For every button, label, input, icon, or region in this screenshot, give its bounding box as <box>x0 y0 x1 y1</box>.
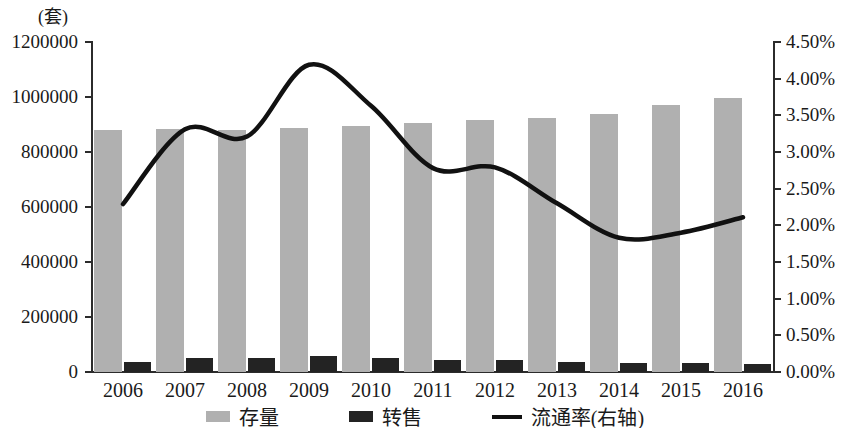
chart-legend: 存量转售流通率(右轴) <box>0 402 850 428</box>
bar-resale <box>186 358 213 372</box>
right-axis-tick-label: 4.00% <box>786 69 835 88</box>
legend-item-label: 转售 <box>382 402 422 428</box>
right-axis-tick-label: 2.00% <box>786 215 835 234</box>
bar-resale <box>620 363 647 372</box>
bar-stock <box>342 126 370 372</box>
left-axis-tick-label: 200000 <box>21 307 78 326</box>
bar-resale <box>124 362 151 372</box>
x-axis-tick-label: 2016 <box>712 379 774 402</box>
right-axis-tick <box>774 298 781 300</box>
circulation-rate-line <box>123 64 743 239</box>
bar-resale <box>558 362 585 372</box>
legend-item[interactable]: 转售 <box>349 402 422 428</box>
right-axis-tick <box>774 261 781 263</box>
bar-resale <box>434 360 461 372</box>
legend-gray-bar-swatch-icon <box>206 411 230 422</box>
x-axis-tick-label: 2010 <box>340 379 402 402</box>
left-axis-tick <box>85 371 92 373</box>
bar-resale <box>248 358 275 372</box>
right-axis-tick <box>774 41 781 43</box>
left-axis-tick-label: 400000 <box>21 252 78 271</box>
bar-resale <box>310 356 337 372</box>
left-axis-tick <box>85 41 92 43</box>
right-axis-tick <box>774 371 781 373</box>
left-axis-tick <box>85 206 92 208</box>
bar-stock <box>590 114 618 373</box>
x-axis-tick-label: 2012 <box>464 379 526 402</box>
bar-stock <box>714 98 742 372</box>
x-axis-tick-label: 2014 <box>588 379 650 402</box>
bar-resale <box>682 363 709 372</box>
legend-item[interactable]: 流通率(右轴) <box>492 402 644 428</box>
left-axis-tick <box>85 261 92 263</box>
bar-stock <box>280 128 308 372</box>
legend-item[interactable]: 存量 <box>206 402 279 428</box>
bar-stock <box>94 130 122 372</box>
chart-container: (套) 020000040000060000080000010000001200… <box>0 0 850 428</box>
x-axis-tick-label: 2007 <box>154 379 216 402</box>
x-axis-tick-label: 2013 <box>526 379 588 402</box>
bar-stock <box>528 118 556 372</box>
right-axis-tick-label: 3.00% <box>786 142 835 161</box>
left-axis-tick-label: 0 <box>69 362 79 381</box>
x-axis-tick-label: 2006 <box>92 379 154 402</box>
left-axis-tick <box>85 316 92 318</box>
right-axis-tick-label: 2.50% <box>786 179 835 198</box>
right-axis-tick-label: 0.00% <box>786 362 835 381</box>
bar-stock <box>652 105 680 372</box>
x-axis-tick-label: 2011 <box>402 379 464 402</box>
bar-resale <box>496 360 523 372</box>
right-axis-tick <box>774 114 781 116</box>
legend-dark-bar-swatch-icon <box>349 411 373 422</box>
bar-stock <box>218 130 246 372</box>
x-axis-tick-label: 2009 <box>278 379 340 402</box>
right-axis-tick-label: 1.50% <box>786 252 835 271</box>
bar-stock <box>466 120 494 372</box>
left-axis-tick-label: 800000 <box>21 142 78 161</box>
right-axis-tick <box>774 151 781 153</box>
right-axis-tick-label: 1.00% <box>786 289 835 308</box>
legend-item-label: 流通率(右轴) <box>531 402 644 428</box>
left-axis-tick <box>85 96 92 98</box>
right-axis-tick <box>774 334 781 336</box>
x-axis-tick-label: 2015 <box>650 379 712 402</box>
right-axis-tick <box>774 188 781 190</box>
bar-resale <box>744 364 771 372</box>
bar-stock <box>156 129 184 372</box>
left-axis-tick-label: 1000000 <box>12 87 79 106</box>
left-axis-tick-label: 1200000 <box>12 32 79 51</box>
x-axis-tick-label: 2008 <box>216 379 278 402</box>
legend-item-label: 存量 <box>239 402 279 428</box>
right-axis-spine <box>773 41 775 373</box>
right-axis-tick-label: 4.50% <box>786 32 835 51</box>
bar-stock <box>404 123 432 372</box>
right-axis-tick-label: 0.50% <box>786 325 835 344</box>
left-axis-tick-label: 600000 <box>21 197 78 216</box>
right-axis-tick-label: 3.50% <box>786 105 835 124</box>
left-axis-tick <box>85 151 92 153</box>
right-axis-tick <box>774 224 781 226</box>
legend-line-swatch-icon <box>492 415 522 419</box>
bar-resale <box>372 358 399 372</box>
right-axis-tick <box>774 78 781 80</box>
y-axis-unit-caption: (套) <box>38 2 68 28</box>
